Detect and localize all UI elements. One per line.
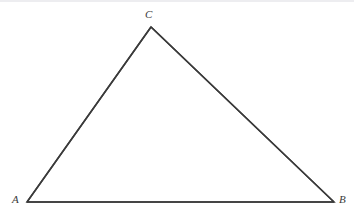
vertex-label-b: B — [339, 194, 346, 205]
edge-cb — [151, 27, 334, 202]
triangle-outline — [27, 27, 334, 202]
vertex-label-c: C — [145, 9, 152, 20]
edge-ac — [27, 27, 151, 202]
vertex-label-a: A — [12, 194, 19, 205]
figure-canvas: A B C — [0, 0, 354, 217]
triangle-diagram — [0, 0, 354, 217]
